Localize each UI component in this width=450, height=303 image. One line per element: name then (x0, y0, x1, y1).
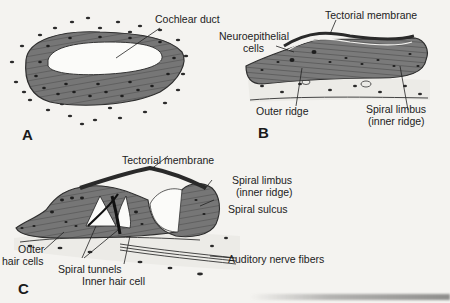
panel-letter-a: A (22, 126, 33, 143)
panel-letter-c: C (18, 280, 29, 297)
label-hair-cells: hair cells (2, 256, 43, 267)
label-b-tectorial-membrane: Tectorial membrane (325, 10, 417, 21)
label-b-inner-ridge: (inner ridge) (368, 116, 425, 127)
panel-a-drawing (10, 17, 188, 126)
label-inner-hair-cell: Inner hair cell (82, 276, 145, 287)
label-spiral-sulcus: Spiral sulcus (228, 204, 288, 215)
label-spiral-tunnels: Spiral tunnels (58, 264, 122, 275)
label-neuroepithelial: Neuroepithelial (219, 31, 289, 42)
label-outer-ridge: Outer ridge (256, 106, 309, 117)
label-auditory-nerve-fibers: Auditory nerve fibers (228, 254, 324, 265)
label-c-spiral-limbus: Spiral limbus (232, 175, 292, 186)
label-c-tectorial-membrane: Tectorial membrane (122, 155, 214, 166)
label-outer: Outer (18, 244, 44, 255)
panel-letter-b: B (258, 124, 269, 141)
label-neuroepithelial-cells: cells (243, 43, 264, 54)
label-cochlear-duct: Cochlear duct (155, 14, 220, 25)
label-b-spiral-limbus: Spiral limbus (366, 104, 426, 115)
panel-c-drawing (14, 156, 240, 275)
page-bleed-through (250, 294, 450, 300)
label-c-inner-ridge: (inner ridge) (236, 187, 293, 198)
